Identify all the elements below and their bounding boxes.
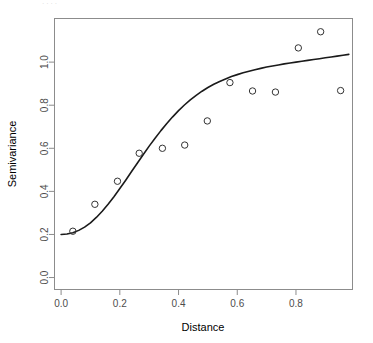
top-text-fragment: · · · · bbox=[42, 0, 57, 7]
plot-canvas: · · · · 0.00.20.40.60.8 0.00.20.40.60.81… bbox=[0, 0, 373, 343]
x-tick-label: 0.0 bbox=[54, 298, 68, 309]
y-tick-label: 1.0 bbox=[39, 55, 50, 69]
x-tick-label: 0.6 bbox=[230, 298, 244, 309]
variogram-figure: · · · · 0.00.20.40.60.8 0.00.20.40.60.81… bbox=[0, 0, 373, 343]
y-tick-label: 0.6 bbox=[39, 141, 50, 155]
y-tick-label: 0.8 bbox=[39, 98, 50, 112]
figure-background bbox=[0, 0, 373, 343]
x-axis-title: Distance bbox=[182, 321, 225, 333]
y-tick-label: 0.2 bbox=[39, 227, 50, 241]
x-tick-label: 0.4 bbox=[172, 298, 186, 309]
y-axis-title: Semivariance bbox=[6, 121, 18, 188]
x-tick-label: 0.2 bbox=[113, 298, 127, 309]
x-tick-label: 0.8 bbox=[289, 298, 303, 309]
y-tick-label: 0.0 bbox=[39, 270, 50, 284]
y-tick-label: 0.4 bbox=[39, 184, 50, 198]
